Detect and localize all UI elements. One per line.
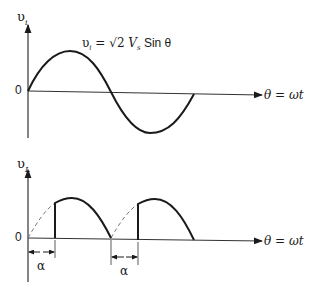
bottom-y-axis-label: υL (17, 157, 30, 174)
alpha-label-2: α (120, 265, 128, 277)
top-y-axis-label: υi (17, 10, 27, 27)
alpha-label-1: α (37, 260, 45, 272)
output-pulse-2 (138, 199, 194, 240)
top-x-axis (28, 91, 262, 95)
bottom-plot (28, 170, 262, 282)
top-x-axis-label: θ = ωt (264, 89, 304, 101)
top-origin-label: 0 (15, 84, 22, 96)
bottom-origin-label: 0 (15, 231, 22, 243)
dashed-blocked-portion-2 (111, 204, 138, 238)
dashed-blocked-portion-1 (28, 203, 55, 238)
bottom-x-axis-label: θ = ωt (264, 235, 304, 247)
bottom-x-axis (28, 238, 262, 241)
equation-label: υi = √2 Vs Sin θ (82, 37, 171, 52)
output-pulse-1 (55, 198, 111, 238)
